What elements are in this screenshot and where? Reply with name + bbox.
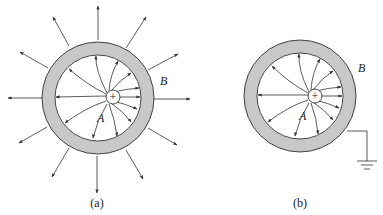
ground-symbol: [347, 131, 377, 169]
caption-a: (a): [90, 196, 103, 210]
charge-sign: +: [110, 90, 117, 104]
caption-b: (b): [293, 196, 307, 210]
charge-sign: +: [312, 89, 319, 103]
shell-inner-edge: [55, 55, 141, 141]
label-b: B: [160, 74, 168, 88]
diagram-canvas: + A B (a) + A B: [0, 0, 383, 215]
label-a: A: [298, 109, 307, 123]
figure-b: + A B (b): [244, 40, 377, 210]
label-a: A: [96, 111, 105, 125]
figure-a: + A B (a): [8, 6, 190, 210]
label-b: B: [358, 61, 366, 75]
